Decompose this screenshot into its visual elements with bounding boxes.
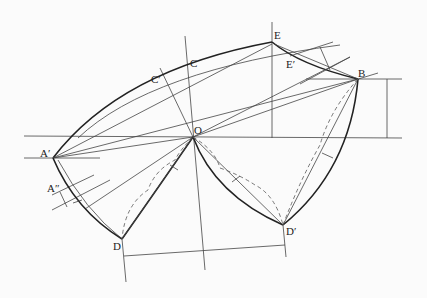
label-C-prime: C′ — [151, 74, 161, 85]
label-A-prime: A′ — [40, 148, 50, 159]
label-B: B — [358, 68, 365, 79]
diagram-lines — [0, 0, 427, 298]
label-O: O — [194, 125, 202, 136]
label-E-prime: E′ — [286, 59, 295, 70]
label-D-prime: D′ — [286, 226, 296, 237]
label-E: E — [274, 30, 281, 41]
label-D: D — [113, 241, 121, 252]
label-C: C — [190, 58, 197, 69]
geometry-diagram: E E′ B C C′ O A′ A″ D D′ — [0, 0, 427, 298]
label-A-double-prime: A″ — [47, 183, 60, 194]
